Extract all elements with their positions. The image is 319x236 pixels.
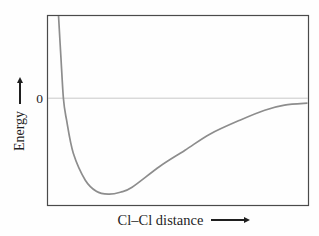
- arrow-head: [244, 217, 250, 223]
- plot-svg: [0, 0, 319, 236]
- plot-frame: [48, 16, 309, 206]
- up-arrow-icon: [17, 77, 23, 104]
- arrow-head: [17, 77, 23, 83]
- y-axis-label: Energy: [11, 64, 29, 164]
- energy-curve: [59, 15, 308, 194]
- arrow-shaft: [19, 83, 20, 104]
- zero-tick-label: 0: [28, 90, 43, 107]
- potential-energy-figure: 0 Energy Cl–Cl distance: [0, 0, 319, 236]
- x-axis-label-text: Cl–Cl distance: [118, 212, 204, 229]
- right-arrow-icon: [211, 217, 250, 223]
- x-axis-label: Cl–Cl distance: [47, 210, 309, 230]
- y-axis-label-text: Energy: [12, 111, 28, 151]
- arrow-shaft: [211, 219, 244, 220]
